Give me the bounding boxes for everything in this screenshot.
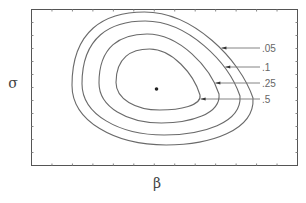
mode-point (155, 87, 159, 91)
arrowhead-icon (215, 81, 220, 84)
contour-chart: .05.1.25.5 σ β (0, 0, 306, 203)
contour-.5 (116, 49, 200, 110)
contour-level-label: .05 (262, 43, 276, 54)
contour-level-label: .25 (262, 78, 276, 89)
contour-labels: .05.1.25.5 (201, 43, 277, 105)
x-axis-label: β (153, 175, 161, 191)
arrowhead-icon (201, 97, 206, 100)
contour-.1 (82, 21, 240, 135)
contours (72, 12, 253, 145)
arrowhead-icon (225, 65, 230, 68)
axis-ticks (32, 10, 298, 166)
arrowhead-icon (221, 46, 226, 49)
contour-level-label: .1 (262, 62, 271, 73)
contour-level-label: .5 (262, 94, 271, 105)
plot-frame (32, 10, 298, 166)
y-axis-label: σ (8, 75, 18, 91)
